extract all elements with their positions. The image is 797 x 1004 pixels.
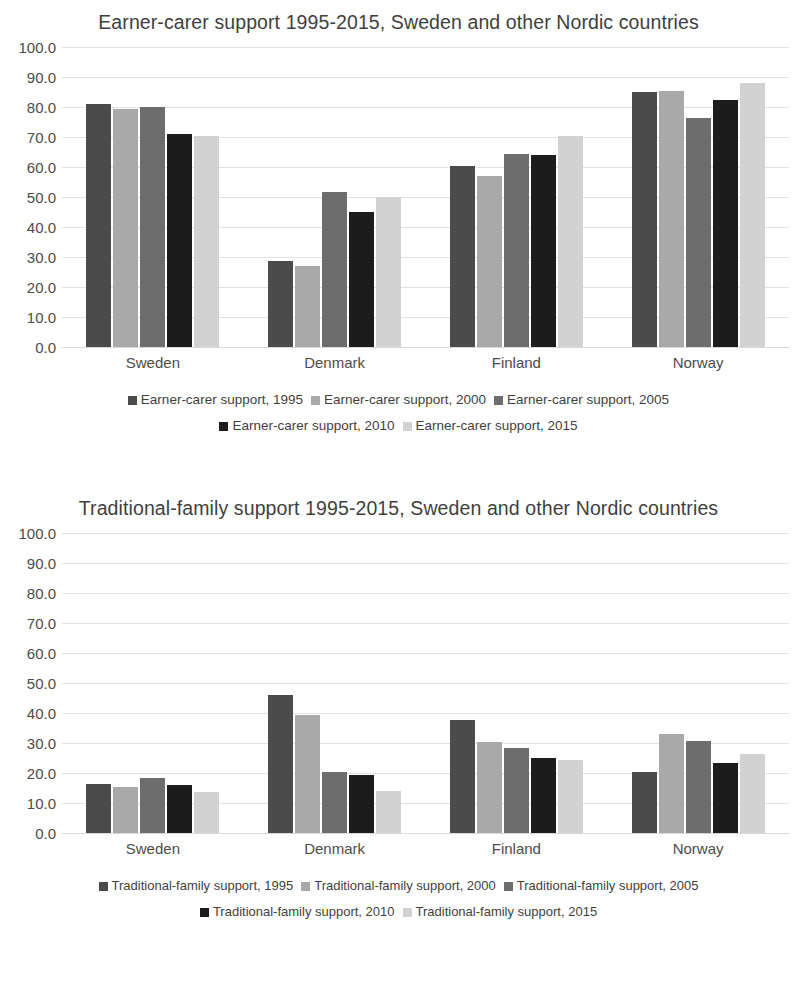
y-axis-tick-label: 10.0 <box>27 795 56 812</box>
bar[interactable] <box>376 197 401 347</box>
bar[interactable] <box>86 104 111 347</box>
legend-swatch-icon <box>128 396 137 405</box>
bar[interactable] <box>477 742 502 833</box>
bar[interactable] <box>349 775 374 834</box>
bar[interactable] <box>659 91 684 348</box>
plot-inner <box>62 533 789 833</box>
y-axis-tick-label: 80.0 <box>27 99 56 116</box>
y-axis-tick-label: 80.0 <box>27 585 56 602</box>
bar-group-denmark <box>244 533 426 833</box>
bar[interactable] <box>86 784 111 833</box>
y-axis-tick-label: 30.0 <box>27 249 56 266</box>
bar[interactable] <box>531 155 556 347</box>
bar[interactable] <box>740 754 765 833</box>
x-axis-tick-label: Denmark <box>244 354 426 371</box>
y-axis-tick-label: 0.0 <box>35 825 56 842</box>
bar[interactable] <box>632 92 657 347</box>
bar[interactable] <box>167 785 192 833</box>
bar-group-denmark <box>244 47 426 347</box>
y-axis-labels: 100.090.080.070.060.050.040.030.020.010.… <box>0 47 56 347</box>
bar[interactable] <box>450 720 475 833</box>
bar[interactable] <box>268 695 293 833</box>
bar[interactable] <box>295 266 320 347</box>
bar[interactable] <box>713 763 738 834</box>
legend-row: Traditional-family support, 1995Traditio… <box>0 873 797 899</box>
y-axis-tick-label: 50.0 <box>27 675 56 692</box>
bar[interactable] <box>140 778 165 833</box>
bar[interactable] <box>504 154 529 347</box>
legend-swatch-icon <box>504 882 513 891</box>
bar[interactable] <box>268 261 293 347</box>
legend-swatch-icon <box>200 908 209 917</box>
y-axis-tick-label: 0.0 <box>35 339 56 356</box>
y-axis-tick-label: 100.0 <box>18 39 56 56</box>
y-axis-tick-label: 20.0 <box>27 765 56 782</box>
bar[interactable] <box>686 741 711 833</box>
chart-figure-earner-carer: Earner-carer support 1995-2015, Sweden a… <box>0 0 797 484</box>
bar[interactable] <box>322 192 347 347</box>
legend-swatch-icon <box>99 882 108 891</box>
bar[interactable] <box>450 166 475 348</box>
legend-row: Traditional-family support, 2010Traditio… <box>0 899 797 925</box>
plot-area-earner-carer: 100.090.080.070.060.050.040.030.020.010.… <box>0 47 797 347</box>
y-axis-tick-label: 40.0 <box>27 705 56 722</box>
x-axis-tick-label: Norway <box>607 354 789 371</box>
y-axis-tick-label: 70.0 <box>27 615 56 632</box>
y-axis-tick-label: 60.0 <box>27 159 56 176</box>
x-axis-labels: SwedenDenmarkFinlandNorway <box>62 840 789 857</box>
legend-item[interactable]: Traditional-family support, 2015 <box>403 899 598 925</box>
legend-row: Earner-carer support, 1995Earner-carer s… <box>0 387 797 413</box>
bar[interactable] <box>558 136 583 348</box>
page-title: Earner-carer support 1995-2015, Sweden a… <box>0 0 797 37</box>
legend-item[interactable]: Earner-carer support, 2005 <box>494 387 669 413</box>
bar[interactable] <box>740 83 765 347</box>
legend-label: Traditional-family support, 2000 <box>314 873 496 899</box>
legend-item[interactable]: Earner-carer support, 2010 <box>219 413 394 439</box>
bar[interactable] <box>167 134 192 347</box>
legend-item[interactable]: Traditional-family support, 1995 <box>99 873 294 899</box>
legend-label: Earner-carer support, 2000 <box>324 387 486 413</box>
bar[interactable] <box>113 109 138 348</box>
y-axis-tick-label: 20.0 <box>27 279 56 296</box>
x-axis-tick-label: Sweden <box>62 354 244 371</box>
legend-item[interactable]: Traditional-family support, 2000 <box>301 873 496 899</box>
bar[interactable] <box>504 748 529 833</box>
bar[interactable] <box>713 100 738 348</box>
legend-swatch-icon <box>494 396 503 405</box>
bar[interactable] <box>113 787 138 833</box>
x-axis-labels: SwedenDenmarkFinlandNorway <box>62 354 789 371</box>
legend-item[interactable]: Earner-carer support, 1995 <box>128 387 303 413</box>
bar[interactable] <box>659 734 684 833</box>
chart-legend-earner-carer: Earner-carer support, 1995Earner-carer s… <box>0 387 797 439</box>
bar-group-norway <box>607 533 789 833</box>
legend-label: Earner-carer support, 2010 <box>232 413 394 439</box>
bar[interactable] <box>558 760 583 833</box>
bar[interactable] <box>349 212 374 347</box>
bar[interactable] <box>295 715 320 834</box>
legend-item[interactable]: Earner-carer support, 2000 <box>311 387 486 413</box>
plot-inner <box>62 47 789 347</box>
legend-item[interactable]: Traditional-family support, 2005 <box>504 873 699 899</box>
page-title: Traditional-family support 1995-2015, Sw… <box>0 484 797 523</box>
bar[interactable] <box>477 176 502 347</box>
bar[interactable] <box>632 772 657 833</box>
bar[interactable] <box>686 118 711 348</box>
bar-groups <box>62 47 789 347</box>
legend-swatch-icon <box>301 882 310 891</box>
legend-item[interactable]: Traditional-family support, 2010 <box>200 899 395 925</box>
bar-group-sweden <box>62 533 244 833</box>
y-axis-tick-label: 100.0 <box>18 525 56 542</box>
legend-swatch-icon <box>219 422 228 431</box>
legend-item[interactable]: Earner-carer support, 2015 <box>403 413 578 439</box>
bar[interactable] <box>531 758 556 833</box>
bar[interactable] <box>194 136 219 348</box>
y-axis-tick-label: 90.0 <box>27 555 56 572</box>
legend-swatch-icon <box>403 908 412 917</box>
bar-group-finland <box>426 533 608 833</box>
bar[interactable] <box>194 792 219 833</box>
bar[interactable] <box>322 772 347 833</box>
bar[interactable] <box>376 791 401 833</box>
y-axis-labels: 100.090.080.070.060.050.040.030.020.010.… <box>0 533 56 833</box>
bar-group-finland <box>426 47 608 347</box>
bar[interactable] <box>140 107 165 347</box>
